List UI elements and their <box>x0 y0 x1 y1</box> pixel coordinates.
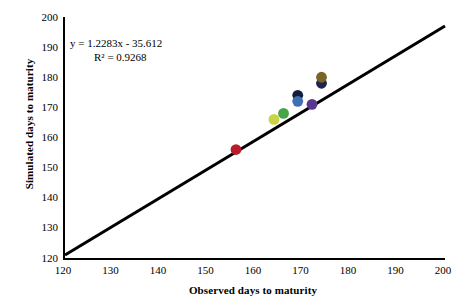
scatter-chart: Simulated days to maturity 1201301401501… <box>0 0 466 307</box>
x-axis-tick-labels: 120130140150160170180190200 <box>63 265 443 281</box>
y-tick-label: 130 <box>16 222 58 233</box>
point-green[interactable] <box>278 108 289 119</box>
y-tick-label: 180 <box>16 72 58 83</box>
x-tick-label: 160 <box>233 265 273 276</box>
y-tick-label: 150 <box>16 162 58 173</box>
y-tick-label: 160 <box>16 132 58 143</box>
point-red[interactable] <box>231 144 242 155</box>
x-tick-label: 150 <box>186 265 226 276</box>
y-tick-label: 200 <box>16 12 58 23</box>
regression-annotation: y = 1.2283x - 35.612 R² = 0.9268 <box>68 36 162 64</box>
x-tick-label: 120 <box>43 265 83 276</box>
x-tick-label: 190 <box>376 265 416 276</box>
regression-equation: y = 1.2283x - 35.612 <box>68 36 162 50</box>
y-axis-tick-labels: 120130140150160170180190200 <box>12 17 58 258</box>
x-tick-label: 200 <box>423 265 463 276</box>
y-tick-label: 120 <box>16 253 58 264</box>
x-tick-label: 130 <box>91 265 131 276</box>
point-brown[interactable] <box>316 72 327 83</box>
r-squared-value: R² = 0.9268 <box>68 50 162 64</box>
x-axis-title: Observed days to maturity <box>63 284 443 296</box>
point-purple[interactable] <box>307 99 318 110</box>
point-blue[interactable] <box>292 96 303 107</box>
x-tick-label: 180 <box>328 265 368 276</box>
y-tick-label: 190 <box>16 42 58 53</box>
y-tick-label: 170 <box>16 102 58 113</box>
x-tick-label: 170 <box>281 265 321 276</box>
point-yellowgreen[interactable] <box>269 114 280 125</box>
y-tick-label: 140 <box>16 192 58 203</box>
x-tick-label: 140 <box>138 265 178 276</box>
